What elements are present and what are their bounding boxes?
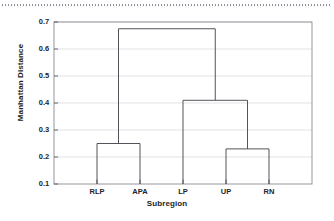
x-tick-label-apa: APA	[120, 187, 160, 196]
y-tick-label: 0.6	[25, 44, 49, 53]
x-tick-label-rlp: RLP	[77, 187, 117, 196]
y-tick-label: 0.5	[25, 71, 49, 80]
dendrogram-figure: 0.70.60.50.40.30.20.1 RLPAPALPUPRN Subre…	[0, 0, 334, 221]
y-axis-title: Manhattan Distance	[16, 23, 25, 143]
y-tick-label: 0.7	[25, 17, 49, 26]
y-tick-marks	[54, 22, 58, 184]
y-tick-label: 0.2	[25, 152, 49, 161]
x-axis-title: Subregion	[0, 199, 334, 208]
dendrogram-tree	[97, 29, 269, 184]
y-tick-label: 0.4	[25, 98, 49, 107]
x-tick-label-rn: RN	[249, 187, 289, 196]
x-tick-label-up: UP	[206, 187, 246, 196]
y-tick-label: 0.3	[25, 125, 49, 134]
y-tick-label: 0.1	[25, 179, 49, 188]
x-tick-label-lp: LP	[163, 187, 203, 196]
